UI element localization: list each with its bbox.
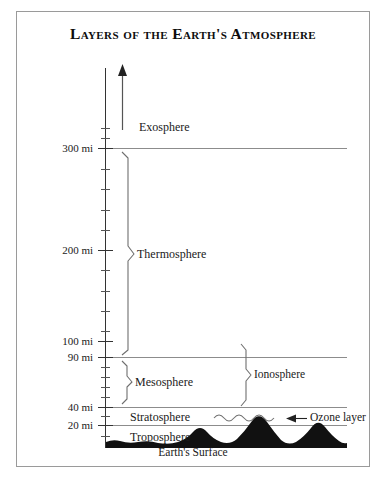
exosphere-arrow	[118, 64, 127, 130]
axis-label-100mi: 100 mi	[25, 336, 93, 347]
ionosphere-brace	[241, 344, 251, 406]
figure-frame: Layers of the Earth's Atmosphere	[16, 11, 370, 467]
ozone-layer-arrow	[286, 415, 307, 423]
boundary-lines	[105, 149, 347, 448]
layer-label-troposphere: Troposphere	[130, 431, 190, 443]
surface-caption: Earth's Surface	[17, 446, 369, 458]
annotation-label-ozone-layer: Ozone layer	[310, 412, 366, 424]
axis-label-20mi: 20 mi	[25, 420, 93, 431]
mesosphere-brace	[122, 361, 132, 404]
layer-label-mesosphere: Mesosphere	[135, 376, 193, 388]
atmosphere-diagram	[17, 12, 371, 468]
axis-label-300mi: 300 mi	[25, 143, 93, 154]
axis-label-200mi: 200 mi	[25, 245, 93, 256]
layer-label-exosphere: Exosphere	[139, 121, 190, 133]
axis-label-90mi: 90 mi	[25, 352, 93, 363]
annotation-label-ionosphere: Ionosphere	[254, 369, 305, 381]
thermosphere-brace	[122, 152, 134, 355]
axis-label-40mi: 40 mi	[25, 402, 93, 413]
layer-label-thermosphere: Thermosphere	[137, 248, 206, 260]
layer-label-stratosphere: Stratosphere	[130, 411, 190, 423]
